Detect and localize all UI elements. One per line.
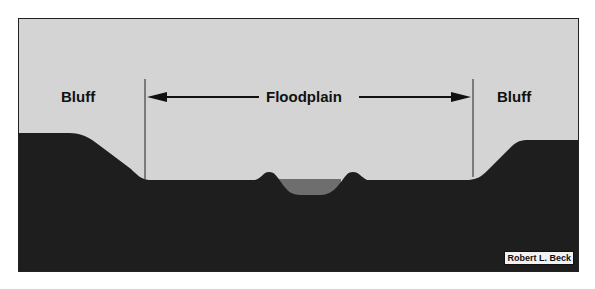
cross-section-graphic	[19, 19, 579, 272]
credit-label: Robert L. Beck	[504, 251, 574, 265]
right-arrow-head	[451, 92, 471, 102]
right-bluff-label: Bluff	[497, 88, 531, 105]
left-bluff-label: Bluff	[61, 88, 95, 105]
left-arrow-head	[147, 92, 167, 102]
floodplain-label: Floodplain	[266, 88, 342, 105]
ground-profile	[19, 133, 579, 272]
floodplain-diagram: Bluff Floodplain Bluff Robert L. Beck	[18, 18, 579, 272]
